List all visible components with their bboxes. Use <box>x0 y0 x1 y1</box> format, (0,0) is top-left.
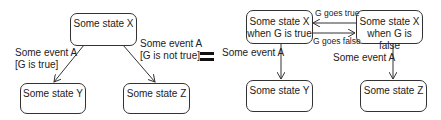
state-x: Some state X <box>70 13 137 46</box>
guard-label: [G is true] <box>15 59 77 71</box>
state-y-label: Some state Y <box>23 88 83 99</box>
state-label-line2: when G is true <box>247 28 312 40</box>
transition-label-x-to-z: Some event A [G is not true] <box>140 38 202 62</box>
state-z-label: Some state Z <box>127 88 186 99</box>
transition-label-goes-false: G goes false <box>313 36 361 46</box>
state-y: Some state Y <box>20 83 86 114</box>
event-label: Some event A <box>140 38 202 50</box>
state-x-when-g-true: Some state X when G is true <box>246 10 313 44</box>
state-y-label: Some state Y <box>250 85 310 96</box>
state-x-when-g-false: Some state X when G is false <box>356 10 423 44</box>
transition-label-x-to-y: Some event A [G is true] <box>15 47 77 71</box>
state-y-right: Some state Y <box>246 80 313 112</box>
state-label-line1: Some state X <box>247 16 312 28</box>
state-z-right: Some state Z <box>360 80 427 112</box>
transition-label-xtrue-to-y: Some event A <box>222 47 284 59</box>
transition-label-goes-true: G goes true <box>315 8 359 18</box>
state-label-line1: Some state X <box>357 16 422 28</box>
event-label: Some event A <box>15 47 77 59</box>
state-z-label: Some state Z <box>364 85 423 96</box>
state-label-line2: when G is false <box>357 28 422 52</box>
guard-label: [G is not true] <box>140 50 202 62</box>
transition-label-xfalse-to-z: Some event A <box>333 52 395 64</box>
state-z: Some state Z <box>123 83 190 114</box>
state-x-label: Some state X <box>73 18 133 29</box>
